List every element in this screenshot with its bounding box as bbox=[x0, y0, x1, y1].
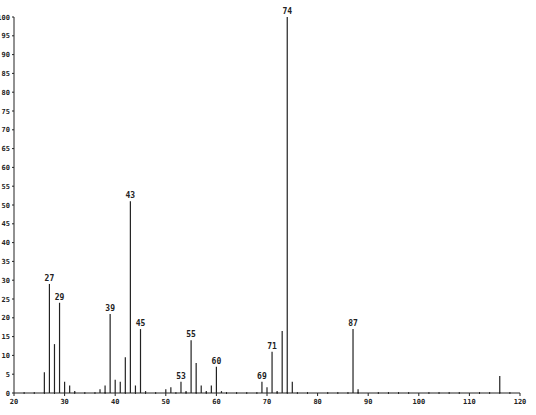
y-tick-label: 35 bbox=[2, 258, 10, 266]
x-tick-label: 70 bbox=[263, 398, 271, 406]
x-tick-label: 50 bbox=[162, 398, 170, 406]
peak-label: 55 bbox=[186, 330, 196, 339]
y-tick-label: 25 bbox=[2, 296, 10, 304]
y-tick-label: 80 bbox=[2, 89, 10, 97]
x-tick-label: 20 bbox=[10, 398, 18, 406]
peak-label: 53 bbox=[176, 372, 186, 381]
y-tick-label: 20 bbox=[2, 314, 10, 322]
y-tick-label: 70 bbox=[2, 126, 10, 134]
x-tick-label: 40 bbox=[111, 398, 119, 406]
y-tick-label: 85 bbox=[2, 70, 10, 78]
y-tick-label: 60 bbox=[2, 164, 10, 172]
peak-label: 60 bbox=[212, 357, 222, 366]
x-tick-label: 90 bbox=[364, 398, 372, 406]
peak-label: 74 bbox=[282, 7, 292, 16]
y-tick-label: 75 bbox=[2, 108, 10, 116]
y-tick-label: 100 bbox=[0, 14, 10, 22]
y-tick-label: 95 bbox=[2, 32, 10, 40]
peak-label: 27 bbox=[45, 274, 55, 283]
peak-label: 71 bbox=[267, 342, 277, 351]
y-tick-label: 5 bbox=[6, 371, 10, 379]
y-tick-label: 40 bbox=[2, 239, 10, 247]
y-tick-label: 90 bbox=[2, 51, 10, 59]
peak-label: 29 bbox=[55, 293, 65, 302]
y-tick-label: 10 bbox=[2, 352, 10, 360]
y-tick-label: 0 bbox=[6, 390, 10, 398]
y-tick-label: 50 bbox=[2, 202, 10, 210]
x-tick-label: 120 bbox=[514, 398, 527, 406]
x-tick-label: 110 bbox=[463, 398, 476, 406]
peak-label: 39 bbox=[105, 304, 115, 313]
peak-label: 69 bbox=[257, 372, 267, 381]
y-tick-label: 45 bbox=[2, 220, 10, 228]
peak-label: 87 bbox=[348, 319, 358, 328]
y-tick-label: 30 bbox=[2, 277, 10, 285]
peak-label: 45 bbox=[136, 319, 146, 328]
x-tick-label: 30 bbox=[60, 398, 68, 406]
mass-spectrum-chart: 0510152025303540455055606570758085909510… bbox=[0, 0, 536, 415]
peak-label: 43 bbox=[126, 191, 136, 200]
x-tick-label: 80 bbox=[313, 398, 321, 406]
x-tick-label: 60 bbox=[212, 398, 220, 406]
y-tick-label: 65 bbox=[2, 145, 10, 153]
y-tick-label: 15 bbox=[2, 333, 10, 341]
y-tick-label: 55 bbox=[2, 183, 10, 191]
x-tick-label: 100 bbox=[412, 398, 425, 406]
